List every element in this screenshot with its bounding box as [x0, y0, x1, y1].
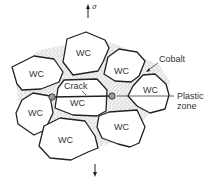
svg-text:WC: WC: [70, 98, 85, 108]
plastic-zone-label-line1: Plastic: [177, 91, 204, 101]
stress-symbol: σ: [92, 3, 97, 11]
plastic-zone-right: [109, 93, 115, 99]
svg-text:WC: WC: [76, 48, 91, 58]
plastic-zone-label-line2: zone: [177, 101, 197, 111]
svg-text:WC: WC: [143, 85, 158, 95]
stress-arrow-down-icon: [93, 164, 97, 177]
svg-text:WC: WC: [114, 66, 129, 76]
cobalt-label: Cobalt: [159, 54, 186, 64]
svg-text:WC: WC: [114, 122, 129, 132]
svg-text:WC: WC: [28, 108, 43, 118]
stress-arrow-up-icon: [86, 4, 90, 18]
crack-line: [52, 96, 112, 97]
svg-text:WC: WC: [29, 69, 44, 79]
svg-text:WC: WC: [58, 135, 73, 145]
plastic-zone-left: [49, 94, 55, 100]
wc-cobalt-crack-diagram: σ WC WC WC WC WC WC WC WC Crack: [0, 0, 215, 182]
crack-label: Crack: [64, 81, 88, 91]
